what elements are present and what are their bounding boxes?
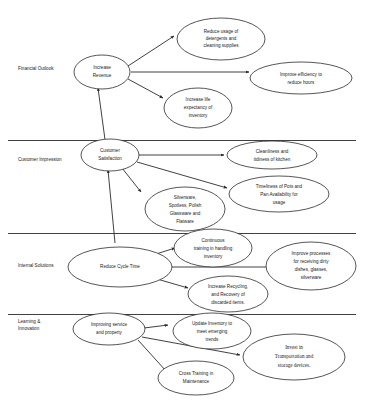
node-improving-service-property-line1: Improving service [91, 322, 127, 327]
node-improve-efficiency-line1: Improve efficiency to [280, 72, 322, 77]
diagram-canvas: Financial Outlook Customer Impression In… [0, 0, 366, 413]
node-cleanliness-tidiness[interactable]: Cleanliness and tidiness of kitchen [227, 141, 317, 169]
connector-service-to-update-inventory [144, 325, 168, 328]
connector-satisfaction-to-timeliness [137, 162, 227, 188]
node-improve-efficiency-ellipse [250, 62, 352, 94]
node-cross-training-maintenance-line1: Cross Training in [179, 371, 214, 376]
node-update-inventory[interactable]: Update Inventory to meet emerging trends [173, 313, 251, 349]
node-cross-training-maintenance-line2: Maintenance [183, 379, 210, 384]
node-continuous-training[interactable]: Continuous training in handling inventor… [174, 229, 252, 267]
node-improving-service-property-ellipse [73, 313, 145, 345]
node-invest-transportation-storage-line3: storage devices. [278, 362, 311, 368]
node-increase-revenue[interactable]: Increase Revenue [74, 55, 130, 89]
perspective-label-internal: Internal Solutions [18, 263, 54, 268]
node-increase-life-expectancy-line3: inventory [189, 113, 208, 118]
node-increase-revenue-line2: Revenue [93, 73, 112, 78]
node-cleanliness-tidiness-ellipse [227, 141, 317, 169]
node-silverware-glassware-line4: Flatware [176, 219, 194, 224]
node-reduce-cycle-time[interactable]: Reduce Cycle Time [68, 247, 172, 287]
node-increase-revenue-ellipse [74, 55, 130, 89]
node-continuous-training-line3: inventory [204, 254, 223, 259]
node-improve-receiving-processes-line4: silverware [301, 275, 322, 280]
node-reduce-detergent-usage-line2: detergents and [206, 36, 237, 41]
node-timeliness-pots-pans[interactable]: Timeliness of Pots and Pan Availability … [229, 176, 329, 212]
node-increase-recycling-line1: Increase Recycling, [208, 284, 248, 289]
node-reduce-detergent-usage-line1: Reduce usage of [204, 29, 239, 34]
node-improve-efficiency[interactable]: Improve efficiency to reduce hours [250, 62, 352, 94]
connector-cycle-time-to-satisfaction [108, 170, 115, 243]
node-increase-life-expectancy-line1: Increase life [186, 97, 211, 102]
node-cleanliness-tidiness-line1: Cleanliness and [256, 149, 289, 154]
connector-satisfaction-to-silverware [122, 168, 141, 192]
node-increase-recycling-line3: discarded items. [211, 300, 244, 305]
node-cross-training-maintenance-ellipse [158, 361, 234, 395]
node-improve-receiving-processes-line1: Improve processes [292, 251, 332, 256]
node-customer-satisfaction-line2: Satisfaction [98, 156, 122, 161]
connector-revenue-to-detergents [128, 36, 174, 66]
node-continuous-training-line2: training in handling [194, 246, 233, 251]
perspective-label-financial: Financial Outlook [18, 66, 54, 71]
connector-cycle-to-recycling [157, 279, 188, 288]
node-silverware-glassware[interactable]: Silverware, Spotless, Polish Glassware a… [145, 187, 225, 231]
node-increase-life-expectancy-line2: expectancy of [184, 105, 213, 110]
perspective-label-learning-line1: Learning & [18, 319, 40, 324]
node-improve-receiving-processes-ellipse [266, 242, 356, 290]
strategy-map-diagram: Financial Outlook Customer Impression In… [0, 0, 366, 413]
node-increase-recycling-line2: and Recovery of [211, 292, 245, 297]
node-update-inventory-line1: Update Inventory to [192, 321, 233, 326]
node-customer-satisfaction-line1: Customer [100, 148, 120, 153]
node-customer-satisfaction-ellipse [81, 139, 139, 171]
node-invest-transportation-storage[interactable]: Invest in Transportation and storage dev… [243, 334, 345, 380]
node-reduce-detergent-usage[interactable]: Reduce usage of detergents and cleaning … [177, 18, 265, 60]
node-timeliness-pots-pans-line3: usage [273, 200, 286, 205]
node-timeliness-pots-pans-line1: Timeliness of Pots and [256, 184, 303, 189]
connector-service-to-cross-training [138, 340, 166, 371]
node-increase-life-expectancy[interactable]: Increase life expectancy of inventory [164, 88, 232, 128]
node-cleanliness-tidiness-line2: tidiness of kitchen [254, 157, 291, 162]
node-silverware-glassware-line3: Glassware and [170, 211, 201, 216]
node-improving-service-property[interactable]: Improving service and property [73, 313, 145, 345]
node-silverware-glassware-line2: Spotless, Polish [169, 203, 202, 208]
node-improve-receiving-processes-line2: for receiving dirty [294, 259, 330, 264]
node-continuous-training-line1: Continuous [201, 238, 225, 243]
connector-revenue-to-life-expectancy [128, 79, 163, 98]
node-increase-revenue-line1: Increase [93, 65, 111, 70]
connector-satisfaction-to-revenue [98, 88, 106, 147]
node-invest-transportation-storage-line2: Transportation and [275, 353, 314, 359]
node-reduce-cycle-time-line1: Reduce Cycle Time [100, 264, 140, 269]
perspective-label-customer: Customer Impression [18, 157, 62, 162]
node-increase-recycling[interactable]: Increase Recycling, and Recovery of disc… [188, 276, 268, 312]
node-cross-training-maintenance[interactable]: Cross Training in Maintenance [158, 361, 234, 395]
perspective-label-learning-line2: Innovation [18, 326, 40, 331]
node-update-inventory-line3: trends [206, 337, 219, 342]
node-improving-service-property-line2: and property [96, 330, 122, 335]
node-silverware-glassware-ellipse [145, 187, 225, 231]
node-silverware-glassware-line1: Silverware, [174, 195, 197, 200]
node-timeliness-pots-pans-line2: Pan Availability for [260, 192, 298, 197]
node-invest-transportation-storage-line1: Invest in [285, 344, 303, 350]
node-update-inventory-line2: meet emerging [197, 329, 228, 334]
node-improve-receiving-processes-line3: dishes, glasses, [295, 267, 328, 272]
node-reduce-detergent-usage-line3: cleaning supplies [203, 43, 239, 48]
node-improve-receiving-processes[interactable]: Improve processes for receiving dirty di… [266, 242, 356, 290]
node-customer-satisfaction[interactable]: Customer Satisfaction [81, 139, 139, 171]
node-improve-efficiency-line2: reduce hours [288, 80, 316, 85]
